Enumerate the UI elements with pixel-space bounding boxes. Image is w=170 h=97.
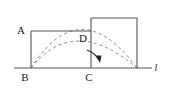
label-C: C	[85, 71, 92, 83]
label-A: A	[17, 24, 25, 36]
rotation-arrow-head	[96, 56, 102, 64]
label-line-l: l	[155, 62, 158, 73]
rotation-arrow-curve	[87, 50, 99, 60]
label-D: D	[79, 32, 87, 44]
geometry-figure: A B C D l	[0, 0, 170, 97]
inner-arc-dashed	[31, 41, 137, 68]
label-B: B	[21, 71, 28, 83]
figure-canvas: A B C D l	[0, 0, 170, 97]
